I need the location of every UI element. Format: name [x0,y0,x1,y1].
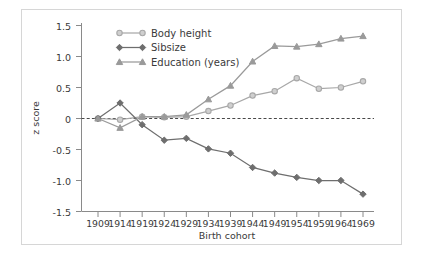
data-point [227,150,233,156]
data-point [183,135,189,141]
data-point [249,164,255,170]
legend-marker [140,30,145,35]
legend-marker [116,44,122,50]
data-point [205,146,211,152]
x-tick-label: 1964 [329,218,353,229]
x-axis-ticks [98,212,363,218]
legend-label: Education (years) [151,57,239,68]
y-tick-label: 0 [65,114,71,125]
data-point [316,86,321,91]
x-axis-tick-labels: 1909191419191924192919341939194419491954… [86,218,375,229]
legend-marker [117,30,122,35]
data-point [250,93,255,98]
x-tick-label: 1929 [174,218,198,229]
y-tick-label: 0.5 [56,83,71,94]
x-tick-label: 1934 [197,218,221,229]
y-axis-title: z score [30,101,41,135]
line-chart: 1.5 1.0 0.5 0 -0.5 -1.0 -1.5 z score 190… [22,10,401,244]
chart-legend: Body heightSibsizeEducation (years) [116,28,239,68]
data-point [206,108,211,113]
x-tick-label: 1914 [108,218,132,229]
legend-item-sibsize[interactable]: Sibsize [116,42,186,53]
data-point [360,191,366,197]
x-tick-label: 1954 [285,218,309,229]
x-tick-label: 1969 [351,218,375,229]
y-tick-label: -1.5 [52,207,71,218]
data-point [338,177,344,183]
data-point [338,85,343,90]
data-point [117,117,122,122]
data-point [205,96,211,102]
figure-frame: 1.5 1.0 0.5 0 -0.5 -1.0 -1.5 z score 190… [21,9,402,245]
legend-item-body-height[interactable]: Body height [117,28,212,39]
data-point [228,103,233,108]
data-point [249,58,255,64]
figure-container: 1.5 1.0 0.5 0 -0.5 -1.0 -1.5 z score 190… [0,0,424,262]
y-tick-label: -0.5 [52,145,71,156]
data-point [294,174,300,180]
x-tick-label: 1909 [86,218,110,229]
data-point [271,170,277,176]
legend-item-education-years[interactable]: Education (years) [116,57,239,68]
legend-marker [139,44,145,50]
y-tick-label: -1.0 [52,176,71,187]
y-axis-ticks [76,26,82,212]
data-point [272,89,277,94]
series-sibsize [95,100,366,198]
data-point [360,79,365,84]
y-axis-tick-labels: 1.5 1.0 0.5 0 -0.5 -1.0 -1.5 [52,21,71,218]
data-point [316,177,322,183]
x-tick-label: 1949 [263,218,287,229]
legend-label: Body height [151,28,211,39]
y-tick-label: 1.0 [56,52,71,63]
legend-label: Sibsize [151,42,186,53]
x-tick-label: 1944 [241,218,265,229]
x-tick-label: 1939 [219,218,243,229]
data-point [294,76,299,81]
x-tick-label: 1959 [307,218,331,229]
x-tick-label: 1919 [130,218,154,229]
x-tick-label: 1924 [152,218,176,229]
y-tick-label: 1.5 [56,21,71,32]
x-axis-title: Birth cohort [199,230,256,241]
